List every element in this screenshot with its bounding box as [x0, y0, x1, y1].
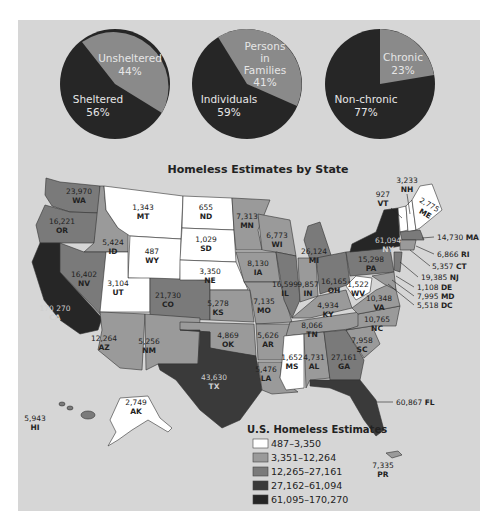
- pie-pct-sheltered: 56%: [86, 106, 109, 118]
- label-il-value: 16,599: [272, 280, 298, 289]
- legend-swatch-5: [253, 495, 268, 504]
- pie-pct-families: 41%: [253, 76, 276, 88]
- pie-sheltered: Unsheltered 44% Sheltered 56%: [60, 29, 170, 139]
- label-ok-abbr: OK: [222, 340, 235, 349]
- label-vt-abbr: VT: [378, 199, 390, 208]
- state-pr: [386, 451, 402, 458]
- label-wa-abbr: WA: [72, 196, 86, 205]
- label-ut-value: 3,104: [107, 279, 129, 288]
- pie-label-families-3: Families: [244, 64, 286, 76]
- label-ak-value: 2,749: [125, 398, 147, 407]
- label-ar-abbr: AR: [262, 340, 274, 349]
- pie-chronic: Chronic 23% Non-chronic 77%: [325, 29, 435, 139]
- label-mt-value: 1,343: [132, 203, 154, 212]
- legend-item-2: 3,351–12,264: [271, 452, 336, 463]
- label-az-abbr: AZ: [98, 343, 110, 352]
- label-in-value: 9,857: [297, 280, 319, 289]
- label-la-value: 5,476: [255, 365, 277, 374]
- chart-svg: Unsheltered 44% Sheltered 56% Persons in…: [0, 0, 494, 530]
- legend-title: U.S. Homeless Estimates: [247, 424, 387, 435]
- label-vt-value: 927: [376, 190, 391, 199]
- label-nd-abbr: ND: [200, 212, 213, 221]
- label-al-abbr: AL: [309, 362, 320, 371]
- label-id-abbr: ID: [108, 247, 117, 256]
- label-ms-value: 1,652: [281, 353, 303, 362]
- label-ne-abbr: NE: [204, 276, 215, 285]
- label-la-abbr: LA: [261, 374, 272, 383]
- label-va-abbr: VA: [373, 303, 384, 312]
- label-or-value: 16,221: [49, 217, 75, 226]
- label-ms-abbr: MS: [286, 362, 299, 371]
- label-tn-value: 8,066: [301, 321, 323, 330]
- label-wv-abbr: WV: [351, 289, 365, 298]
- label-az-value: 12,264: [91, 334, 117, 343]
- pie-label-families-1: Persons: [245, 40, 286, 52]
- label-sc-abbr: SC: [357, 345, 368, 354]
- label-tx-abbr: TX: [209, 382, 220, 391]
- state-nj: [394, 252, 402, 272]
- label-ks-value: 5,278: [207, 299, 229, 308]
- label-sd-abbr: SD: [200, 244, 212, 253]
- label-ia-abbr: IA: [254, 268, 263, 277]
- label-nm-abbr: NM: [142, 346, 156, 355]
- callout-ri: 6,866 RI: [437, 250, 470, 259]
- label-wi-value: 6,773: [266, 231, 288, 240]
- callout-nj: 19,385 NJ: [421, 273, 459, 282]
- label-mo-value: 7,135: [253, 297, 275, 306]
- label-pa-abbr: PA: [366, 264, 377, 273]
- legend-item-1: 487–3,350: [271, 438, 321, 449]
- label-hi-abbr: HI: [30, 423, 39, 432]
- label-al-value: 4,731: [303, 353, 325, 362]
- label-ny-abbr: NY: [382, 245, 394, 254]
- label-ga-abbr: GA: [338, 362, 350, 371]
- state-ct: [400, 240, 416, 250]
- label-wy-value: 487: [145, 247, 160, 256]
- label-oh-abbr: OH: [328, 286, 341, 295]
- label-nv-abbr: NV: [78, 279, 90, 288]
- label-mi-abbr: MI: [309, 256, 319, 265]
- legend-swatch-4: [253, 481, 268, 490]
- label-in-abbr: IN: [303, 289, 312, 298]
- label-mt-abbr: MT: [137, 212, 150, 221]
- label-ne-value: 3,350: [199, 267, 221, 276]
- callout-dc: 5,518 DC: [417, 301, 453, 310]
- label-mo-abbr: MO: [257, 306, 271, 315]
- legend-swatch-1: [253, 439, 268, 448]
- label-hi-value: 5,943: [24, 414, 46, 423]
- label-pr-value: 7,335: [372, 461, 394, 470]
- label-mn-value: 7,313: [236, 212, 258, 221]
- label-tn-abbr: TN: [306, 330, 317, 339]
- label-ky-value: 4,934: [317, 301, 339, 310]
- label-wv-value: 1,522: [347, 280, 369, 289]
- legend-item-4: 27,162–61,094: [271, 480, 342, 491]
- callout-ct: 5,357 CT: [432, 262, 467, 271]
- pie-label-families-2: in: [260, 52, 270, 64]
- label-nm-value: 5,256: [138, 337, 160, 346]
- pie-families: Persons in Families 41% Individuals 59%: [192, 29, 302, 139]
- callout-ma: 14,730 MA: [437, 233, 479, 242]
- label-ok-value: 4,869: [217, 331, 239, 340]
- legend-swatch-2: [253, 453, 268, 462]
- legend-swatch-3: [253, 467, 268, 476]
- label-ia-value: 8,130: [247, 259, 269, 268]
- legend-item-5: 61,095–170,270: [271, 494, 348, 505]
- label-ca-value: 170 270: [39, 304, 70, 313]
- label-ga-value: 27,161: [331, 353, 357, 362]
- callout-md: 7,995 MD: [417, 292, 455, 301]
- callout-de: 1,108 DE: [417, 283, 452, 292]
- label-il-abbr: IL: [281, 289, 289, 298]
- pie-pct-individuals: 59%: [217, 106, 240, 118]
- label-ak-abbr: AK: [130, 407, 143, 416]
- callout-fl: 60,867 FL: [396, 398, 435, 407]
- pie-label-individuals: Individuals: [201, 93, 258, 105]
- pie-label-sheltered: Sheltered: [73, 93, 124, 105]
- pie-label-unsheltered: Unsheltered: [98, 52, 162, 64]
- pie-pct-unsheltered: 44%: [118, 65, 141, 77]
- map-title: Homeless Estimates by State: [167, 163, 348, 176]
- pie-pct-chronic: 23%: [391, 64, 414, 76]
- label-pa-value: 15,298: [358, 255, 384, 264]
- label-id-value: 5,424: [102, 238, 124, 247]
- map-legend: U.S. Homeless Estimates 487–3,350 3,351–…: [247, 424, 387, 505]
- label-wa-value: 23,970: [66, 187, 92, 196]
- label-tx-value: 43,630: [201, 373, 227, 382]
